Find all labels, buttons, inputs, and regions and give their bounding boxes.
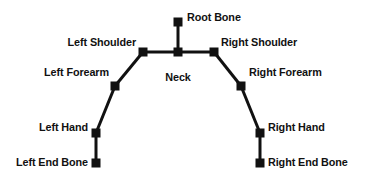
label-left-hand: Left Hand (5, 121, 88, 133)
joint-right-hand[interactable] (256, 129, 265, 138)
label-root-bone: Root Bone (187, 11, 241, 23)
joint-left-hand[interactable] (92, 129, 101, 138)
label-right-shoulder: Right Shoulder (221, 36, 297, 48)
bone-right-forearm-hand (241, 86, 260, 133)
label-left-end-bone: Left End Bone (5, 156, 88, 168)
joint-right-end-bone[interactable] (256, 159, 265, 168)
label-left-forearm: Left Forearm (7, 66, 109, 78)
joint-right-shoulder[interactable] (210, 48, 219, 57)
label-right-hand: Right Hand (268, 121, 325, 133)
joint-root-bone[interactable] (174, 18, 183, 27)
joint-neck[interactable] (174, 48, 183, 57)
label-right-forearm: Right Forearm (249, 66, 322, 78)
label-right-end-bone: Right End Bone (268, 156, 348, 168)
label-left-shoulder: Left Shoulder (8, 36, 136, 48)
joint-left-shoulder[interactable] (139, 48, 148, 57)
bone-left-forearm-hand (96, 86, 115, 133)
bone-hierarchy-diagram: Root BoneNeckLeft ShoulderRight Shoulder… (0, 0, 366, 184)
joint-left-end-bone[interactable] (92, 159, 101, 168)
